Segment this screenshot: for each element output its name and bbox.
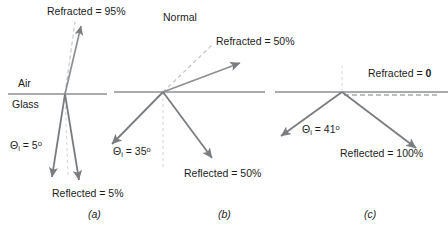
theta-subscript-c: i	[310, 128, 312, 137]
medium-label-air: Air	[18, 78, 31, 89]
panel-c-key: (c)	[364, 209, 376, 220]
theta-symbol-b: Θ	[113, 145, 121, 157]
panel-a-refracted-label: Refracted = 95%	[47, 6, 126, 17]
medium-label-glass: Glass	[12, 99, 39, 110]
degree-symbol-c: o	[336, 123, 340, 132]
theta-symbol-c: Θ	[302, 123, 310, 135]
panel-a-key: (a)	[88, 209, 101, 220]
normal-dashed-line-b	[163, 45, 212, 92]
theta-equals-b: =	[126, 145, 132, 157]
reflected-ray-b	[163, 92, 212, 158]
degree-symbol-a: o	[38, 139, 42, 148]
normal-label: Normal	[163, 12, 197, 23]
reflected-ray-c	[342, 92, 416, 148]
refraction-reflection-diagram: Refracted = 95% Air Glass Θi = 5o Reflec…	[0, 0, 448, 237]
panel-c-refracted-prefix: Refracted =	[368, 67, 426, 79]
theta-value-c: 41	[324, 123, 336, 135]
incident-ray-a	[52, 94, 65, 177]
theta-equals-c: =	[315, 123, 321, 135]
panel-c-reflected-label: Reflected = 100%	[340, 148, 423, 159]
panel-b-key: (b)	[218, 209, 231, 220]
degree-symbol-b: o	[147, 145, 151, 154]
panel-c-refracted-value: 0	[426, 67, 432, 79]
theta-equals-a: =	[23, 139, 29, 151]
panel-b-reflected-label: Reflected = 50%	[184, 168, 261, 179]
theta-subscript-b: i	[121, 150, 123, 159]
incident-ray-b	[112, 92, 163, 144]
theta-subscript-a: i	[18, 144, 20, 153]
theta-value-b: 35	[135, 145, 147, 157]
refracted-ray-b	[163, 63, 240, 92]
panel-b-incident-angle-label: Θi = 35o	[113, 146, 151, 158]
reflected-ray-a	[65, 94, 79, 180]
panel-c-incident-angle-label: Θi = 41o	[302, 124, 340, 136]
panel-a-incident-angle-label: Θi = 5o	[10, 140, 42, 152]
panel-b-refracted-label: Refracted = 50%	[216, 36, 295, 47]
panel-c-refracted-label: Refracted = 0	[368, 68, 431, 79]
panel-a-reflected-label: Reflected = 5%	[52, 188, 124, 199]
theta-symbol-a: Θ	[10, 139, 18, 151]
